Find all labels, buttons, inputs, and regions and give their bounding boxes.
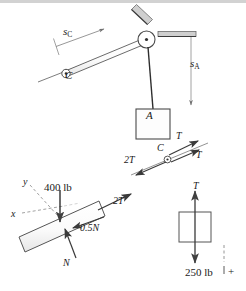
rod-body xyxy=(64,40,144,77)
label-fbd-pulley-C: C xyxy=(157,143,164,153)
label-axis-x: x xyxy=(11,209,15,219)
block-A xyxy=(136,109,170,139)
label-rod-friction: 0.5N xyxy=(80,223,99,233)
cable-to-block-A xyxy=(148,47,153,109)
fbd-block-A xyxy=(179,191,224,274)
label-fbd-pulley-tension-upper: T xyxy=(176,131,182,141)
label-fbd-pulley-resultant: 2T xyxy=(124,155,135,165)
label-axis-y: y xyxy=(23,177,27,187)
label-block-A: A xyxy=(146,110,153,121)
label-sA: sA xyxy=(190,58,200,70)
pulley-top xyxy=(138,31,155,48)
label-pulley-C: C xyxy=(65,70,72,81)
label-block-tension: T xyxy=(193,181,199,191)
label-rod-normal: N xyxy=(63,258,70,268)
label-rod-weight: 400 lb xyxy=(44,182,72,193)
label-sign-convention: + xyxy=(228,266,234,277)
figure-vector-layer xyxy=(0,0,246,291)
dimension-sC xyxy=(51,22,110,56)
support-hatch-horizontal xyxy=(158,32,196,37)
label-sC: sC xyxy=(63,26,72,38)
mechanics-figure: sC sA C A T T 2T C y x 400 lb 2T 0.5N N … xyxy=(0,0,246,291)
label-block-weight: 250 lb xyxy=(185,267,213,278)
support-hatch-diagonal xyxy=(132,5,153,25)
label-rod-tension: 2T xyxy=(113,196,124,206)
label-fbd-pulley-tension-lower: T xyxy=(196,150,202,160)
